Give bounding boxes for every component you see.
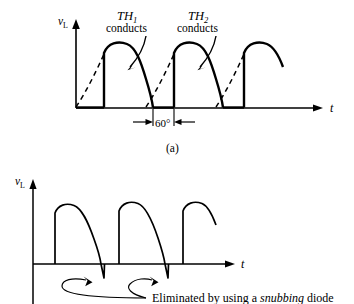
caption-text-part1: Eliminated by using a <box>152 291 260 304</box>
panel-a-angle-label: 60° <box>155 117 170 129</box>
figure-page: TH1 conducts TH2 conducts <box>0 0 354 304</box>
caption-text-emphasis: snubbing <box>260 291 304 304</box>
panel-b-leader-arrows <box>62 279 152 298</box>
panel-b-y-axis <box>29 179 36 304</box>
panel-a-figure: TH1 conducts TH2 conducts <box>0 0 354 160</box>
panel-b-caption: Eliminated by using a snubbing diode <box>152 291 334 304</box>
panel-a-caption: (a) <box>166 142 179 155</box>
panel-a-x-axis <box>76 104 323 111</box>
caption-text-part2: diode <box>304 291 334 304</box>
panel-a-y-axis <box>72 19 80 108</box>
panel-a-conducting-trace <box>76 43 283 108</box>
panel-b-x-axis <box>33 261 235 268</box>
panel-b-y-axis-label: vL <box>15 175 25 190</box>
panel-b-x-axis-label: t <box>241 257 245 271</box>
panel-a-annotation-th2: TH2 conducts <box>177 9 218 70</box>
panel-a-x-axis-label: t <box>330 101 334 115</box>
panel-a-y-axis-label: vL <box>58 15 68 30</box>
panel-b-figure: vL t Eliminated by using a snubbing diod… <box>0 160 354 304</box>
panel-a-dashed-supply-trace <box>76 54 244 107</box>
panel-a-angle-dimension: 60° <box>133 109 195 129</box>
svg-text:conducts: conducts <box>106 22 147 34</box>
panel-b-arrowheads <box>84 276 159 286</box>
svg-text:conducts: conducts <box>177 22 218 34</box>
panel-b-waveform-trace <box>55 202 216 278</box>
